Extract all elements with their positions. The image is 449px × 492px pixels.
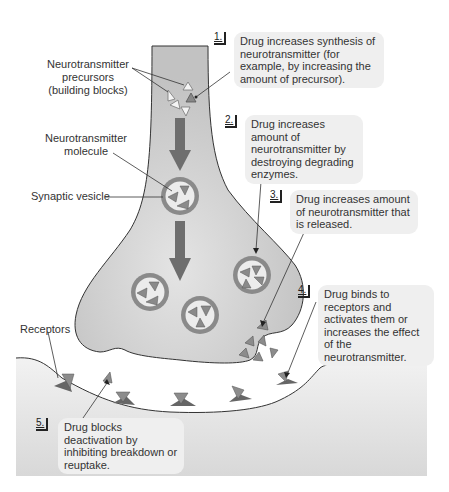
- step-1-callout: Drug increases synthesis of neurotransmi…: [234, 32, 384, 88]
- precursors-label-line2: precursors: [40, 71, 136, 84]
- molecule-label: Neurotransmitter molecule: [38, 132, 134, 158]
- molecule-label-line1: Neurotransmitter: [38, 132, 134, 145]
- step-5-callout: Drug blocks deactivation by inhibiting b…: [58, 418, 184, 474]
- step-2-number-text: 2.: [225, 114, 233, 125]
- vesicle: [233, 256, 271, 294]
- step-3-callout: Drug increases amount of neurotransmitte…: [290, 190, 418, 234]
- vesicle: [131, 273, 169, 311]
- step-4-number: 4.: [298, 285, 310, 298]
- step-2-number: 2.: [225, 115, 237, 128]
- vesicle: [161, 177, 199, 215]
- step-4-number-text: 4.: [298, 284, 306, 295]
- vesicle-label: Synaptic vesicle: [31, 190, 110, 203]
- step-5-number-text: 5.: [36, 417, 44, 428]
- step-2-callout: Drug increases amount of neurotransmitte…: [245, 115, 363, 184]
- precursors-label-line3: (building blocks): [40, 84, 136, 97]
- molecule-label-line2: molecule: [38, 145, 134, 158]
- step-3-number: 3.: [270, 190, 282, 203]
- step-5-number: 5.: [36, 418, 48, 431]
- step-4-callout: Drug binds to receptors and activates th…: [318, 285, 434, 366]
- step-1-number-text: 1.: [214, 31, 222, 42]
- precursors-label: Neurotransmitter precursors (building bl…: [40, 58, 136, 97]
- precursors-label-line1: Neurotransmitter: [40, 58, 136, 71]
- step-3-number-text: 3.: [270, 189, 278, 200]
- receptors-label: Receptors: [20, 323, 70, 336]
- vesicle: [181, 296, 219, 334]
- step-1-number: 1.: [214, 32, 226, 45]
